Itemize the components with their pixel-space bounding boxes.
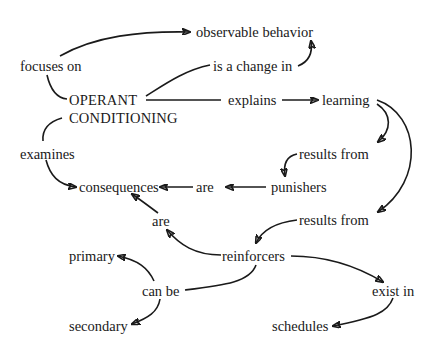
arrow-exist-in-to-schedules: [333, 298, 393, 326]
node-operant: OPERANT: [69, 92, 137, 108]
arrow-learning-to-results-from-1: [377, 104, 388, 142]
node-consequences: consequences: [79, 179, 159, 195]
node-primary: primary: [69, 248, 115, 264]
node-learning: learning: [322, 92, 370, 108]
link-examines: examines: [20, 146, 75, 162]
arrow-can-be-to-primary: [118, 256, 154, 281]
line-conditioning-to-examines: [43, 118, 62, 141]
link-are-1: are: [196, 179, 214, 195]
arrow-can-be-to-secondary: [132, 299, 160, 324]
arrow-results-from-1-to-punishers: [285, 154, 298, 176]
line-operant-to-is-a-change-in: [146, 65, 210, 96]
link-are-2: are: [152, 213, 170, 229]
link-can-be: can be: [142, 283, 179, 299]
node-focuses-on: focuses on: [20, 58, 82, 74]
arrow-reinforcers-to-are-2: [167, 230, 221, 255]
arrow-results-from-2-to-reinforcers: [256, 220, 297, 243]
link-results-from-2: results from: [299, 212, 369, 228]
line-operant-to-focuses-on: [47, 75, 67, 99]
line-reinforcers-to-can-be: [185, 265, 256, 290]
node-observable-behavior: observable behavior: [196, 24, 313, 40]
concept-map: observable behavior focuses on is a chan…: [0, 0, 435, 350]
arrow-are-2-to-consequences: [132, 194, 158, 213]
arrow-focuses-on-to-observable-behavior: [60, 32, 190, 56]
node-schedules: schedules: [272, 318, 328, 334]
link-is-a-change-in: is a change in: [213, 58, 292, 74]
arrow-is-a-change-in-to-observable-behavior: [298, 41, 311, 66]
node-punishers: punishers: [271, 179, 327, 195]
node-conditioning: CONDITIONING: [69, 110, 178, 126]
link-exist-in: exist in: [372, 283, 414, 299]
connector-lines: [0, 0, 435, 350]
link-explains: explains: [228, 92, 276, 108]
node-reinforcers: reinforcers: [222, 248, 285, 264]
node-secondary: secondary: [69, 318, 128, 334]
link-results-from-1: results from: [299, 146, 369, 162]
arrow-reinforcers-to-exist-in: [291, 256, 383, 282]
arrow-examines-to-consequences: [46, 160, 76, 187]
arrow-learning-to-results-from-2: [377, 100, 411, 212]
